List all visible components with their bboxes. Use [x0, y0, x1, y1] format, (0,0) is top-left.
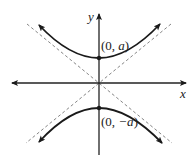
vertex-bottom-label: (0, −a)	[101, 115, 138, 128]
vertex-top-point	[97, 56, 101, 60]
x-axis-label: x	[180, 87, 186, 100]
vertex-bottom-point	[97, 106, 101, 110]
y-axis-label: y	[88, 10, 94, 23]
vertex-top-label: (0, a)	[101, 39, 129, 52]
hyperbola-diagram	[0, 0, 196, 165]
